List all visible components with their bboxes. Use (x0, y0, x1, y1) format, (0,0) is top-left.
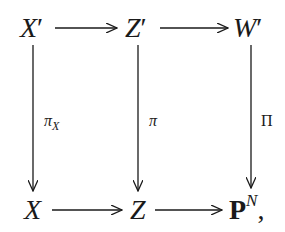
label-pi-x: πX (44, 113, 59, 129)
node-x: X (24, 196, 41, 224)
node-w-prime: W′ (233, 14, 262, 42)
node-projective-space: PN, (229, 196, 264, 224)
node-z: Z (130, 196, 146, 224)
node-z-prime: Z′ (125, 14, 147, 42)
commutative-diagram: X′ Z′ W′ X Z PN, πX π Π (0, 0, 285, 232)
label-capital-pi: Π (261, 113, 273, 129)
label-pi: π (149, 113, 157, 129)
node-x-prime: X′ (20, 14, 43, 42)
